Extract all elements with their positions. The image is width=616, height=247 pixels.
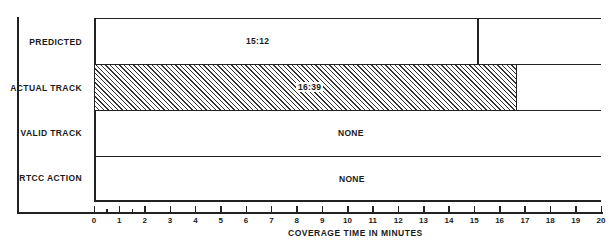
- x-tick: [423, 206, 425, 213]
- x-tick-label: 16: [490, 216, 510, 225]
- row-actual-track: 16:39: [94, 64, 601, 110]
- x-tick-label: 20: [591, 216, 611, 225]
- row-label-rtcc-action: RTCC ACTION: [0, 173, 82, 183]
- x-tick: [550, 206, 552, 213]
- x-minor-tick: [106, 209, 108, 213]
- x-tick: [474, 206, 476, 213]
- x-tick: [575, 206, 577, 213]
- x-tick: [601, 206, 603, 213]
- x-tick-label: 14: [439, 216, 459, 225]
- row-label-valid-track: VALID TRACK: [0, 128, 82, 138]
- x-tick: [347, 206, 349, 213]
- x-tick-label: 11: [363, 216, 383, 225]
- x-tick: [246, 206, 248, 213]
- row-label-actual-track: ACTUAL TRACK: [0, 83, 82, 93]
- x-tick-label: 3: [160, 216, 180, 225]
- x-tick-label: 1: [109, 216, 129, 225]
- x-tick: [170, 206, 172, 213]
- x-tick-label: 9: [312, 216, 332, 225]
- x-tick: [144, 206, 146, 213]
- row-label-predicted: PREDICTED: [0, 37, 82, 47]
- x-tick-label: 19: [566, 216, 586, 225]
- plot-bottom-border: [94, 200, 601, 202]
- x-tick-label: 2: [135, 216, 155, 225]
- x-tick-label: 7: [261, 216, 281, 225]
- valid-track-value: NONE: [338, 128, 364, 138]
- x-tick-label: 12: [388, 216, 408, 225]
- x-axis-title: COVERAGE TIME IN MINUTES: [288, 228, 423, 238]
- x-tick-label: 13: [414, 216, 434, 225]
- x-tick-label: 0: [84, 216, 104, 225]
- x-tick: [271, 206, 273, 213]
- x-tick: [448, 206, 450, 213]
- x-tick-label: 10: [338, 216, 358, 225]
- x-tick-label: 5: [211, 216, 231, 225]
- x-tick: [220, 206, 222, 213]
- x-tick: [296, 206, 298, 213]
- x-tick-label: 17: [515, 216, 535, 225]
- x-tick: [94, 206, 96, 213]
- x-tick-label: 18: [540, 216, 560, 225]
- x-tick: [322, 206, 324, 213]
- x-tick: [119, 206, 121, 213]
- x-tick-label: 6: [236, 216, 256, 225]
- x-tick: [398, 206, 400, 213]
- actual-track-value: 16:39: [296, 82, 323, 92]
- x-tick-label: 8: [287, 216, 307, 225]
- x-minor-tick: [132, 209, 134, 213]
- predicted-value: 15:12: [246, 36, 269, 46]
- predicted-end-marker: [477, 19, 479, 64]
- x-tick: [195, 206, 197, 213]
- row-valid-track: NONE: [94, 110, 601, 156]
- x-tick: [499, 206, 501, 213]
- x-axis-line: [17, 212, 603, 214]
- x-tick-label: 15: [464, 216, 484, 225]
- rtcc-action-value: NONE: [339, 174, 365, 184]
- x-tick-label: 4: [185, 216, 205, 225]
- x-tick: [372, 206, 374, 213]
- x-tick: [524, 206, 526, 213]
- row-rtcc-action: NONE: [94, 156, 601, 201]
- plot-area: 15:12 16:39 NONE NONE: [94, 18, 601, 201]
- row-predicted: 15:12: [94, 18, 601, 64]
